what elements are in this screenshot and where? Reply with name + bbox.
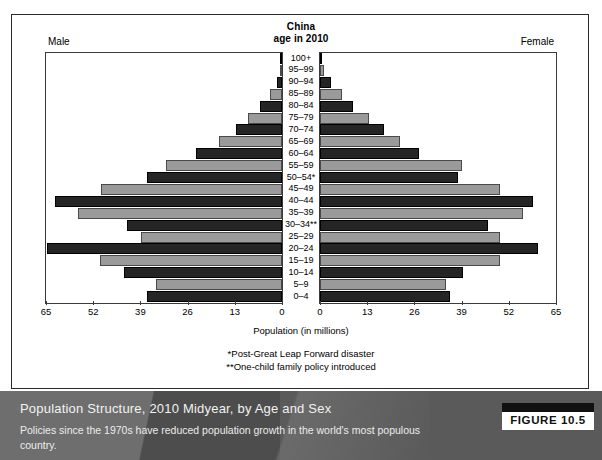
footnote-2: **One-child family policy introduced: [0, 361, 602, 374]
age-group-label: 10–14: [283, 266, 319, 278]
pyramid-bar: [320, 136, 400, 147]
bar-row: [320, 77, 556, 89]
bar-row: [320, 279, 556, 291]
pyramid-bar: [47, 243, 282, 254]
bar-row: [320, 172, 556, 184]
chart-title: China age in 2010: [0, 21, 602, 44]
pyramid-bar: [320, 255, 500, 266]
bar-row: [320, 232, 556, 244]
pyramid-bar: [248, 113, 282, 124]
pyramid-bar: [320, 89, 342, 100]
bar-row: [46, 232, 282, 244]
bar-row: [46, 136, 282, 148]
bar-row: [46, 184, 282, 196]
axis-tick-label: 13: [230, 306, 241, 317]
pyramid-bar: [320, 172, 458, 183]
pyramid-bar: [320, 113, 369, 124]
age-group-label: 20–24: [283, 242, 319, 254]
bar-row: [320, 136, 556, 148]
bar-row: [320, 184, 556, 196]
footnotes: *Post-Great Leap Forward disaster **One-…: [0, 348, 602, 373]
axis-tick-mark: [188, 301, 189, 305]
axis-tick-mark: [320, 301, 321, 305]
bar-row: [320, 267, 556, 279]
pyramid-bar: [156, 279, 282, 290]
axis-tick-label: 65: [41, 306, 52, 317]
axis-tick-mark: [414, 301, 415, 305]
age-group-label: 85–89: [283, 87, 319, 99]
bar-row: [46, 77, 282, 89]
pyramid-bar: [124, 267, 282, 278]
pyramid-bar: [147, 291, 282, 302]
axis-tick-label: 0: [279, 306, 284, 317]
axis-tick-mark: [367, 301, 368, 305]
bar-row: [320, 243, 556, 255]
bar-row: [46, 220, 282, 232]
bar-row: [46, 160, 282, 172]
male-x-axis: 65523926130: [45, 306, 283, 320]
pyramid-bar: [320, 279, 446, 290]
age-group-label: 50–54*: [283, 171, 319, 183]
bar-row: [320, 101, 556, 113]
pyramid-bar: [236, 124, 282, 135]
caption-title: Population Structure, 2010 Midyear, by A…: [20, 401, 331, 416]
axis-tick-label: 13: [362, 306, 373, 317]
figure-root: China age in 2010 Male Female 100+95–999…: [0, 0, 602, 460]
female-chart-panel: [319, 52, 557, 304]
bar-row: [320, 148, 556, 160]
bar-row: [46, 267, 282, 279]
age-group-label: 35–39: [283, 206, 319, 218]
axis-tick-mark: [46, 301, 47, 305]
bar-row: [46, 89, 282, 101]
bar-row: [46, 279, 282, 291]
bar-row: [320, 291, 556, 303]
axis-tick-label: 52: [88, 306, 99, 317]
bar-row: [46, 172, 282, 184]
bar-row: [320, 89, 556, 101]
footnote-1: *Post-Great Leap Forward disaster: [0, 348, 602, 361]
pyramid-bar: [320, 101, 353, 112]
pyramid-bar: [320, 291, 450, 302]
pyramid-bar: [320, 243, 538, 254]
pyramid-bar: [219, 136, 282, 147]
age-group-label: 0–4: [283, 290, 319, 302]
pyramid-bar: [196, 148, 282, 159]
axis-tick-mark: [282, 301, 283, 305]
bar-row: [46, 101, 282, 113]
figure-number-label: FIGURE 10.5: [502, 412, 594, 430]
axis-tick-label: 52: [504, 306, 515, 317]
pyramid-bar: [280, 53, 282, 64]
bar-row: [320, 255, 556, 267]
figure-number-box: FIGURE 10.5: [502, 403, 594, 430]
age-group-label: 25–29: [283, 230, 319, 242]
bar-row: [320, 220, 556, 232]
pyramid-bar: [320, 267, 463, 278]
bar-row: [320, 113, 556, 125]
pyramid-bar: [320, 53, 322, 64]
age-group-label: 55–59: [283, 159, 319, 171]
bar-row: [320, 53, 556, 65]
axis-tick-label: 39: [135, 306, 146, 317]
bar-row: [320, 124, 556, 136]
pyramid-bar: [320, 196, 533, 207]
chart-title-line2: age in 2010: [0, 33, 602, 45]
bar-row: [320, 208, 556, 220]
bar-row: [320, 160, 556, 172]
axis-tick-mark: [462, 301, 463, 305]
pyramid-bar: [260, 101, 282, 112]
bar-row: [46, 124, 282, 136]
age-group-label: 95–99: [283, 63, 319, 75]
pyramid-bar: [55, 196, 282, 207]
age-group-label: 40–44: [283, 194, 319, 206]
bar-row: [46, 291, 282, 303]
pyramid-bar: [280, 65, 282, 76]
pyramid-bar: [320, 184, 500, 195]
pyramid-bar: [320, 148, 419, 159]
bar-row: [320, 196, 556, 208]
pyramid-bar: [141, 232, 282, 243]
figure-number-rule: [502, 403, 594, 412]
age-group-label: 75–79: [283, 111, 319, 123]
bar-row: [46, 255, 282, 267]
age-group-label: 65–69: [283, 135, 319, 147]
chart-title-line1: China: [0, 21, 602, 33]
